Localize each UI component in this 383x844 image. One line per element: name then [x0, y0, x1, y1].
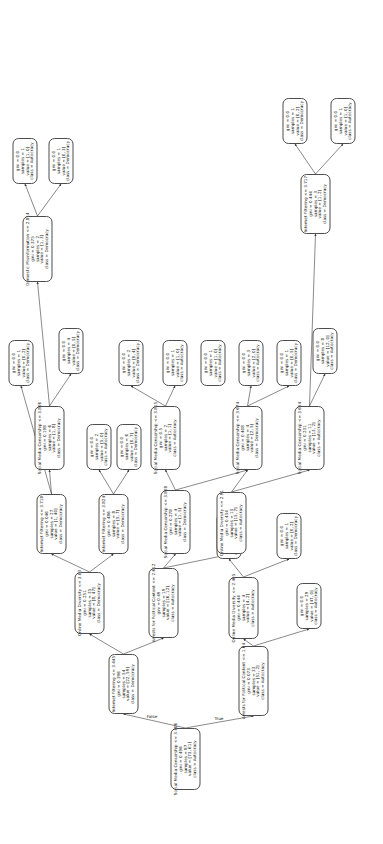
leaf-node: gini = 0.0samples = 4value = [0, 5]class… — [58, 328, 83, 374]
leaf-node: gini = 0.0samples = 8value = [12, 0]clas… — [312, 328, 337, 374]
leaf-node: gini = 0.0samples = 2value = [5, 0]class… — [86, 424, 111, 470]
node-class-label: class = Democracy — [293, 343, 298, 383]
tree-edge — [243, 559, 289, 577]
decision-node: Social Media Censorship <= 3.406gini = 0… — [170, 728, 200, 790]
tree-edge — [89, 554, 113, 572]
tree-edge — [123, 638, 163, 654]
node-class-label: class = Democracy — [293, 516, 298, 556]
edge-label-false: False — [146, 714, 157, 719]
node-class-label: class = Autocracy — [260, 662, 265, 700]
tree-edge — [131, 386, 166, 406]
node-class-label: class = Democracy — [299, 101, 304, 141]
node-class-label: class = Autocracy — [179, 344, 184, 382]
node-class-label: class = Autocracy — [217, 344, 222, 382]
leaf-node: gini = 0.0samples = 1value = [0, 5]class… — [276, 340, 301, 386]
leaf-node: gini = 0.0samples = 1value = [1, 0]class… — [12, 138, 37, 184]
decision-node: Internet Filtering <= 3.718gini = 0.046s… — [36, 494, 66, 554]
decision-node: Online Media Diversity <= 2.405gini = 0.… — [228, 577, 258, 639]
edge-label-true: True — [214, 716, 223, 721]
decision-node: Online Media Diversity <= 3.03gini = 0.2… — [74, 572, 104, 634]
leaf-node: gini = 0.0samples = 1value = [1, 0]class… — [200, 340, 225, 386]
node-class-label: class = Autocracy — [347, 102, 352, 140]
node-class-label: class = Democracy — [135, 343, 140, 383]
node-class-label: class = Democracy — [56, 418, 61, 458]
decision-node: Social Media Censorship <= 3.674gini = 0… — [232, 406, 262, 470]
tree-edge — [37, 282, 49, 406]
tree-edge — [247, 386, 289, 406]
node-class-label: class = Democracy — [322, 184, 327, 224]
decision-node: Social Media Censorship <= 3.815gini = 0… — [150, 406, 180, 470]
decision-node: Arrests for Political Content <= 2.612gi… — [148, 568, 178, 638]
decision-node: Internet Filtering <= 3.445gini = 0.396s… — [108, 654, 138, 714]
tree-edge — [309, 234, 315, 406]
node-class-label: class = Autocracy — [316, 419, 321, 457]
node-class-label: class = Autocracy — [255, 344, 260, 382]
node-class-label: class = Democracy — [25, 343, 30, 383]
node-class-label: class = Autocracy — [170, 584, 175, 622]
leaf-node: gini = 0.0samples = 1value = [1, 0]class… — [330, 98, 355, 144]
decision-tree-canvas: True False Social Media Censorship <= 3.… — [0, 0, 383, 844]
node-class-label: class = Democracy — [182, 502, 187, 542]
leaf-node: gini = 0.0samples = 1value = [0, 3]class… — [48, 138, 73, 184]
decision-node: Social Media Censorship <= 3.654gini = 0… — [294, 406, 324, 470]
leaf-node: gini = 0.0samples = 2value = [0, 4]class… — [118, 340, 143, 386]
node-class-label: class = Democracy — [58, 504, 63, 544]
tree-edge — [49, 374, 71, 406]
tree-edge — [113, 470, 129, 494]
node-class-label: class = Democracy — [254, 418, 259, 458]
node-class-label: class = Democracy — [120, 504, 125, 544]
node-class-label: class = Democracy — [133, 427, 138, 467]
tree-edge — [89, 634, 123, 654]
decision-node: Arrests for Political Content <= 1.64gin… — [238, 646, 268, 716]
leaf-node: gini = 0.0samples = 3value = [2, 0]class… — [238, 340, 263, 386]
node-class-label: class = Autocracy — [250, 589, 255, 627]
decision-node: Social Media Censorship <= 3.808gini = 0… — [160, 490, 190, 554]
tree-edge — [247, 386, 251, 406]
tree-edge — [253, 629, 309, 646]
decision-node: Internet Filtering <= 3.824gini = 0.486s… — [98, 494, 128, 554]
rotated-figure-wrapper: True False Social Media Censorship <= 3.… — [0, 0, 383, 844]
node-class-label: class = Democracy — [130, 664, 135, 704]
leaf-node: gini = 0.0samples = 6value = [0, 7]class… — [116, 424, 141, 470]
leaf-node: gini = 0.0samples = 1value = [0, 2]class… — [282, 98, 307, 144]
decision-node: Online Media Diversity <= 2.91gini = 0.4… — [216, 492, 246, 554]
node-class-label: class = Democracy — [65, 141, 70, 181]
tree-edge — [315, 144, 343, 174]
leaf-node: gini = 0.0samples = 1value = [1, 0]class… — [162, 340, 187, 386]
decision-node: Domestic Misinformation <= 2.814gini = 0… — [22, 216, 52, 282]
leaf-node: gini = 0.0samples = 1value = [0, 2]class… — [276, 513, 301, 559]
node-class-label: class = Autocracy — [172, 419, 177, 457]
node-class-label: class = Autocracy — [29, 142, 34, 180]
tree-edge — [99, 470, 114, 494]
node-class-label: class = Autocracy — [238, 504, 243, 542]
leaf-node: gini = 0.0samples = 29value = [47, 0]cla… — [296, 583, 321, 629]
leaf-node: gini = 0.0samples = 1value = [0, 2]class… — [8, 340, 33, 386]
node-class-label: class = Autocracy — [329, 332, 334, 370]
node-class-label: class = Democracy — [75, 331, 80, 371]
node-class-label: class = Autocracy — [103, 428, 108, 466]
decision-node: Social Media Censorship <= 3.806gini = 0… — [34, 406, 64, 470]
tree-edge — [295, 144, 316, 174]
tree-edge — [165, 386, 175, 406]
node-class-label: class = Democracy — [96, 583, 101, 623]
node-class-label: class = Autocracy — [313, 587, 318, 625]
tree-edge — [51, 554, 89, 572]
decision-node: Internet Filtering <= 3.717gini = 0.444s… — [300, 174, 330, 234]
node-class-label: class = Autocracy — [192, 740, 197, 778]
tree-edge — [37, 184, 61, 216]
tree-edge — [309, 374, 325, 406]
node-class-label: class = Democracy — [44, 229, 49, 269]
